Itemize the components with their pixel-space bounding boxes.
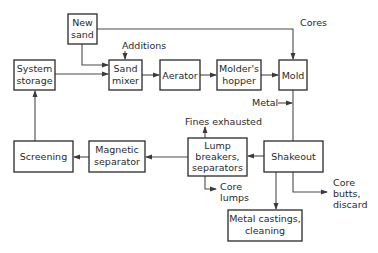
node-aerator: Aerator	[160, 60, 200, 90]
node-label: Aerator	[162, 70, 197, 81]
label-core-lumps-line2: lumps	[220, 192, 249, 203]
node-label: Lump	[204, 140, 230, 151]
node-label: Mold	[282, 70, 305, 81]
node-new-sand: New sand	[68, 14, 97, 44]
node-label: Metal castings,	[229, 213, 301, 224]
node-label: Molder's	[219, 63, 259, 74]
node-label: storage	[16, 75, 52, 86]
node-label: System	[17, 63, 52, 74]
node-label: cleaning	[245, 225, 285, 236]
node-label: Magnetic	[95, 144, 139, 155]
node-molders-hopper: Molder's hopper	[217, 60, 261, 90]
sand-system-flow-diagram: New sand System storage Sand mixer Aerat…	[0, 0, 378, 253]
label-core-lumps-line1: Core	[220, 181, 242, 192]
node-shakeout: Shakeout	[264, 141, 323, 172]
node-label: sand	[71, 29, 94, 40]
node-system-storage: System storage	[14, 60, 55, 90]
node-screening: Screening	[14, 141, 73, 172]
node-label: separator	[94, 156, 140, 167]
node-label: mixer	[112, 75, 139, 86]
node-label: hopper	[222, 75, 256, 86]
edge-lump-to-corelumps	[205, 176, 216, 189]
node-sand-mixer: Sand mixer	[109, 60, 142, 90]
node-magnetic-separator: Magnetic separator	[89, 141, 145, 172]
label-additions: Additions	[122, 40, 166, 51]
node-lump-breakers: Lump breakers, separators	[188, 138, 247, 176]
edge-newsand-to-mixer	[82, 44, 108, 65]
label-core-butts-line3: discard	[333, 199, 367, 210]
node-label: Screening	[20, 151, 67, 162]
label-core-butts-line2: butts,	[333, 188, 360, 199]
label-core-butts-line1: Core	[333, 177, 355, 188]
node-metal-castings: Metal castings, cleaning	[228, 210, 302, 241]
node-label: New	[72, 17, 93, 28]
label-cores: Cores	[300, 17, 327, 28]
node-label: Sand	[114, 63, 138, 74]
node-label: separators	[192, 162, 243, 173]
connectors	[35, 29, 327, 209]
node-label: Shakeout	[271, 151, 316, 162]
label-metal: Metal	[252, 97, 278, 108]
node-mold: Mold	[279, 60, 307, 90]
edge-shakeout-to-corebutts	[293, 172, 327, 192]
label-fines-exhausted: Fines exhausted	[185, 116, 262, 127]
node-label: breakers,	[195, 151, 239, 162]
